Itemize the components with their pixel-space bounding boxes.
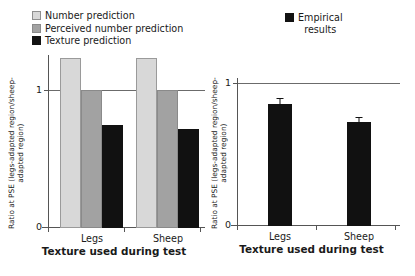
x-tick-start-left bbox=[48, 228, 49, 232]
y-axis-title-left-line2: adapted region) bbox=[17, 77, 26, 229]
legend-label-texture-prediction: Texture prediction bbox=[45, 35, 131, 47]
bar-legs-number-prediction bbox=[60, 58, 81, 228]
legend-label-number-prediction: Number prediction bbox=[45, 10, 135, 22]
legend-swatch-empirical-results-icon bbox=[285, 13, 294, 22]
y-tick-label-0-left: 0 bbox=[20, 221, 42, 232]
legend-item-number-prediction: Number prediction bbox=[32, 10, 183, 22]
panel-empirical: Ratio at PSE (legs-adapted region/sheep-… bbox=[205, 0, 415, 276]
legend-empirical: Empirical results bbox=[285, 12, 343, 36]
x-category-label-legs-left: Legs bbox=[62, 233, 122, 244]
legend-label-empirical-results: Empirical results bbox=[298, 12, 343, 35]
legend-item-perceived-number-prediction: Perceived number prediction bbox=[32, 23, 183, 35]
legend-swatch-perceived-number-prediction-icon bbox=[32, 24, 41, 33]
bar-sheep-perceived-number-prediction bbox=[157, 90, 178, 228]
error-bar-legs-empirical-results bbox=[268, 98, 292, 105]
legend-label-empirical-results-line1: Empirical bbox=[298, 12, 343, 24]
x-tick-start-right bbox=[237, 226, 238, 230]
reference-line-right bbox=[238, 83, 400, 84]
bar-legs-perceived-number-prediction bbox=[81, 90, 102, 228]
y-axis-title-left: Ratio at PSE (legs-adapted region/sheep-… bbox=[8, 77, 25, 229]
bar-sheep-number-prediction bbox=[136, 58, 157, 228]
legend-item-texture-prediction: Texture prediction bbox=[32, 35, 183, 47]
x-tick-mid-left bbox=[124, 228, 125, 232]
bar-sheep-empirical-results bbox=[347, 122, 371, 226]
y-axis-title-right: Ratio at PSE (legs-adapted region/sheep-… bbox=[211, 77, 228, 229]
legend-swatch-number-prediction-icon bbox=[32, 11, 41, 20]
x-tick-mid-right bbox=[316, 226, 317, 230]
y-axis-line-left bbox=[48, 55, 49, 228]
y-axis-title-right-line2: adapted region) bbox=[220, 77, 229, 229]
legend-item-empirical-results: Empirical results bbox=[285, 12, 343, 35]
y-axis-line-right bbox=[237, 78, 238, 226]
y-tick-label-1-right: 1 bbox=[211, 77, 231, 88]
x-tick-end-left bbox=[200, 228, 201, 232]
legend-predictions: Number prediction Perceived number predi… bbox=[32, 10, 183, 48]
bar-legs-texture-prediction bbox=[102, 125, 123, 228]
y-tick-label-1-left: 1 bbox=[20, 84, 42, 95]
x-tick-end-right bbox=[395, 226, 396, 230]
x-category-label-legs-right: Legs bbox=[250, 231, 310, 242]
y-tick-1-left bbox=[44, 90, 48, 91]
x-axis-title-right: Texture used during test bbox=[219, 243, 404, 255]
x-axis-title-left: Texture used during test bbox=[24, 245, 204, 257]
error-bar-sheep-empirical-results bbox=[347, 117, 371, 123]
x-category-label-sheep-right: Sheep bbox=[329, 231, 389, 242]
legend-label-perceived-number-prediction: Perceived number prediction bbox=[45, 23, 183, 35]
y-tick-label-0-right: 0 bbox=[211, 219, 231, 230]
legend-label-empirical-results-line2: results bbox=[298, 24, 343, 36]
y-tick-1-right bbox=[233, 83, 237, 84]
legend-swatch-texture-prediction-icon bbox=[32, 36, 41, 45]
bar-sheep-texture-prediction bbox=[178, 129, 199, 228]
panel-predictions: Ratio at PSE (legs-adapted region/sheep-… bbox=[0, 0, 213, 276]
x-category-label-sheep-left: Sheep bbox=[138, 233, 198, 244]
bar-legs-empirical-results bbox=[268, 104, 292, 226]
